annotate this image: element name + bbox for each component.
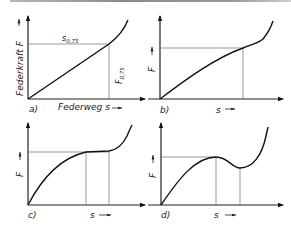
spring-characteristic-diagram: Federkraft F Federweg s a) s0,75 F0,75 F… [0, 0, 291, 229]
characteristic-curve [28, 125, 132, 205]
s075-annotation: s0,75 [62, 34, 79, 44]
panel-b: F s b) [147, 16, 283, 115]
panel-d: F s d) [148, 123, 283, 220]
y-axis-label: F [147, 66, 157, 72]
panel-label: b) [160, 105, 169, 115]
characteristic-curve [28, 20, 128, 99]
y-axis-label: F [15, 171, 25, 177]
panel-label: c) [28, 210, 36, 220]
y-axis-label: Federkraft F [15, 40, 25, 96]
x-axis-label: s [216, 105, 221, 115]
top-border [10, 0, 291, 2]
panel-label: d) [161, 210, 170, 220]
characteristic-curve [160, 21, 273, 99]
panel-label: a) [29, 104, 38, 114]
y-axis-label: F [148, 172, 158, 178]
f075-annotation: F0,75 [115, 67, 125, 84]
characteristic-curve [161, 127, 268, 205]
x-axis-label: s [90, 210, 95, 220]
x-axis-label: s [214, 210, 219, 220]
panel-a: Federkraft F Federweg s a) s0,75 F0,75 [15, 16, 145, 114]
panel-c: F s c) [15, 123, 145, 220]
x-axis-label: Federweg s [58, 102, 110, 112]
